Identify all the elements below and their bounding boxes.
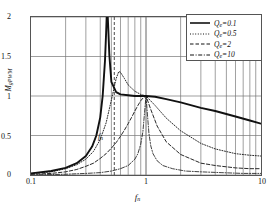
gain-characteristic-figure: 2 1.5 1 0.5 0 0.1 1 10 MgPWM fn fn Qe=0.… bbox=[0, 0, 275, 211]
legend-line-dotted bbox=[190, 30, 210, 38]
legend-label-0: Qe=0.1 bbox=[214, 19, 237, 28]
x-tick-label-0-1: 0.1 bbox=[22, 178, 40, 186]
legend-label-3: Qe=10 bbox=[214, 50, 235, 59]
x-axis-title: fn bbox=[0, 192, 275, 202]
legend-item-0: Qe=0.1 bbox=[190, 18, 259, 29]
legend-item-1: Qe=0.5 bbox=[190, 29, 259, 40]
y-tick-label-2: 2 bbox=[0, 13, 11, 21]
legend-line-dashdot bbox=[190, 51, 210, 59]
x-tick-label-10: 10 bbox=[253, 178, 271, 186]
legend-item-2: Qe=2 bbox=[190, 39, 259, 50]
y-tick-label-1-5: 1.5 bbox=[0, 53, 11, 61]
fn-annotation-label: fn bbox=[98, 132, 103, 141]
x-tick-label-1: 1 bbox=[137, 178, 155, 186]
legend-box: Qe=0.1 Qe=0.5 Qe=2 Qe=10 bbox=[186, 14, 262, 61]
y-tick-label-1: 1 bbox=[0, 93, 11, 101]
legend-label-2: Qe=2 bbox=[214, 40, 231, 49]
legend-item-3: Qe=10 bbox=[190, 50, 259, 61]
y-tick-label-0: 0 bbox=[0, 171, 11, 179]
y-axis-title: MgPWM bbox=[4, 69, 13, 92]
legend-line-solid bbox=[190, 19, 210, 27]
legend-line-dashed bbox=[190, 40, 210, 48]
legend-label-1: Qe=0.5 bbox=[214, 29, 237, 38]
y-tick-label-0-5: 0.5 bbox=[0, 133, 11, 141]
